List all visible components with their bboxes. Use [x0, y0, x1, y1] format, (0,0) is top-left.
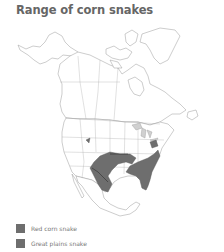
legend-item-red-corn-snake: Red corn snake: [16, 221, 87, 236]
red-corn-snake-swatch: [16, 224, 25, 233]
legend-label: Red corn snake: [31, 225, 77, 232]
map-title: Range of corn snakes: [16, 3, 153, 17]
legend-item-great-plains-snake: Great plains snake: [16, 236, 87, 251]
great-plains-snake-swatch: [16, 239, 25, 248]
legend: Red corn snake Great plains snake: [16, 221, 87, 251]
canada-outline: [58, 52, 186, 125]
greenland-outline: [140, 28, 180, 64]
arctic-islands-outline: [106, 46, 132, 60]
legend-label: Great plains snake: [31, 240, 87, 247]
north-america-range-map: [0, 22, 224, 217]
